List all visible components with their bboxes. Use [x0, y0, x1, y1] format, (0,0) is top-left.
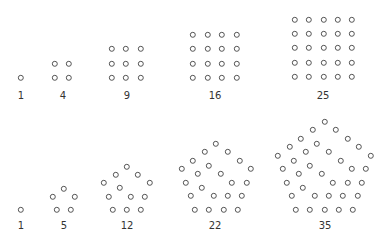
dot — [349, 31, 355, 37]
dot — [101, 180, 107, 186]
dot — [336, 207, 342, 213]
dot — [204, 31, 210, 37]
dot — [109, 46, 115, 52]
dot — [292, 59, 298, 65]
dot — [123, 75, 129, 81]
dot — [280, 166, 286, 172]
dot — [307, 163, 313, 169]
dot — [199, 185, 205, 191]
dot — [105, 193, 111, 199]
dot — [368, 152, 374, 158]
dot — [275, 152, 281, 158]
dot — [337, 158, 343, 164]
dot — [233, 31, 239, 37]
dot — [52, 75, 58, 81]
dot — [320, 59, 326, 65]
dot — [312, 193, 318, 199]
dot — [293, 207, 299, 213]
dot — [244, 180, 250, 186]
dot — [310, 127, 316, 133]
dot — [239, 193, 245, 199]
dot — [349, 166, 355, 172]
dot — [320, 31, 326, 37]
figure-label: 5 — [61, 220, 67, 231]
dot — [61, 186, 67, 192]
dot — [123, 46, 129, 52]
dot — [345, 180, 351, 186]
dot — [206, 163, 212, 169]
dot — [292, 17, 298, 23]
dot — [350, 207, 356, 213]
dot — [287, 144, 293, 150]
figure-label: 4 — [60, 90, 66, 101]
dot — [202, 149, 208, 155]
figure-label: 22 — [209, 220, 222, 231]
dot — [354, 193, 360, 199]
figure-label: 9 — [124, 90, 130, 101]
dot — [349, 59, 355, 65]
dot — [204, 46, 210, 52]
dot — [306, 45, 312, 51]
dot — [219, 46, 225, 52]
dot — [206, 207, 212, 213]
dot — [229, 180, 235, 186]
dot — [204, 75, 210, 81]
dot — [335, 31, 341, 37]
dot — [288, 193, 294, 199]
dot — [326, 193, 332, 199]
figure-label: 25 — [317, 90, 330, 101]
dot — [335, 17, 341, 23]
dot — [190, 31, 196, 37]
figure-label: 1 — [18, 90, 24, 101]
dot — [330, 180, 336, 186]
dot — [124, 207, 130, 213]
dot — [296, 171, 302, 177]
dot — [345, 136, 351, 142]
dot — [356, 144, 362, 150]
figure-label: 12 — [121, 220, 134, 231]
dot — [233, 75, 239, 81]
dot — [219, 31, 225, 37]
dot — [314, 141, 320, 147]
dot — [233, 46, 239, 52]
dot — [321, 119, 327, 125]
dot — [183, 180, 189, 186]
dot — [235, 207, 241, 213]
dot — [112, 172, 118, 178]
dot — [110, 207, 116, 213]
dot — [117, 185, 123, 191]
dot — [359, 180, 365, 186]
dot — [123, 60, 129, 66]
dot — [320, 74, 326, 80]
dot — [67, 207, 73, 213]
dot — [349, 17, 355, 23]
dot — [128, 193, 134, 199]
dot — [204, 60, 210, 66]
dot — [306, 59, 312, 65]
dot — [303, 149, 309, 155]
dot — [109, 75, 115, 81]
dot — [192, 207, 198, 213]
dot — [306, 17, 312, 23]
figure-label: 35 — [319, 220, 332, 231]
dot — [340, 193, 346, 199]
dot — [195, 171, 201, 177]
figurate-numbers-diagram: 149162515122235 — [0, 0, 391, 238]
dot — [233, 60, 239, 66]
dot — [333, 127, 339, 133]
dot — [54, 207, 60, 213]
dot — [190, 60, 196, 66]
dot — [218, 171, 224, 177]
dot — [135, 172, 141, 178]
dot — [124, 164, 130, 170]
dot — [321, 207, 327, 213]
dot — [220, 207, 226, 213]
dot — [109, 60, 115, 66]
dot — [349, 74, 355, 80]
dot — [291, 158, 297, 164]
dot — [146, 180, 152, 186]
dot — [190, 46, 196, 52]
dot — [52, 60, 58, 66]
dot — [292, 45, 298, 51]
dot — [66, 75, 72, 81]
